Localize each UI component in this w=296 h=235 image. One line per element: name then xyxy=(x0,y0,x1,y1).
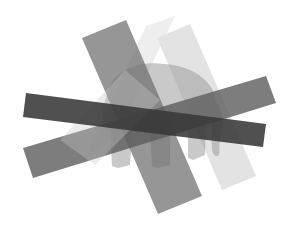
artwork-canvas xyxy=(0,0,296,235)
abstract-artwork xyxy=(0,0,296,235)
